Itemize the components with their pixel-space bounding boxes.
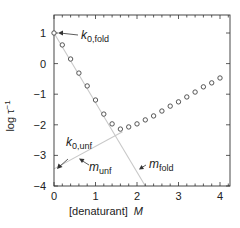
x-axis-label: [denaturant]M <box>69 205 144 217</box>
extrapolation-lines <box>54 33 145 186</box>
data-point <box>77 71 81 75</box>
x-axis-label-main: [denaturant] <box>69 205 128 217</box>
data-points <box>52 31 222 131</box>
x-tick-label: 1 <box>92 190 98 202</box>
data-point <box>127 125 131 129</box>
data-point <box>185 95 189 99</box>
data-point <box>176 100 180 104</box>
data-point <box>60 43 64 47</box>
y-tick-label: −1 <box>33 88 46 100</box>
y-tick-label: 1 <box>40 27 46 39</box>
k0-fold-subscript: 0,fold <box>87 34 109 44</box>
m-unf-subscript: unf <box>99 166 112 176</box>
m-unf-symbol: m <box>89 160 99 174</box>
data-point <box>168 104 172 108</box>
data-point <box>210 81 214 85</box>
svg-text:k0,fold: k0,fold <box>81 28 109 44</box>
annotation-m-unf: munf <box>79 159 112 177</box>
data-point <box>93 98 97 102</box>
data-point <box>102 112 106 116</box>
y-axis-label: log τ−1 <box>3 100 16 132</box>
data-point <box>193 90 197 94</box>
x-tick-label: 2 <box>134 190 140 202</box>
data-point <box>201 85 205 89</box>
annotation-k0-fold: k0,fold <box>58 28 109 44</box>
arrow-head-icon <box>79 159 85 164</box>
data-point <box>118 127 122 131</box>
folding-limb-line <box>54 33 145 186</box>
arrow-head-icon <box>139 165 144 170</box>
x-tick-label: 3 <box>175 190 181 202</box>
y-axis-label-main: log τ <box>4 109 16 132</box>
x-axis-label-unit: M <box>134 205 144 217</box>
m-fold-symbol: m <box>149 157 159 171</box>
y-tick-label: −3 <box>33 149 46 161</box>
data-point <box>160 109 164 113</box>
data-point <box>218 76 222 80</box>
data-point <box>135 122 139 126</box>
y-axis-label-sup: −1 <box>3 100 12 110</box>
data-point <box>110 122 114 126</box>
y-tick-label: −2 <box>33 119 46 131</box>
arrow-head-icon <box>58 31 63 36</box>
data-point <box>85 84 89 88</box>
data-point <box>151 114 155 118</box>
y-tick-label: −4 <box>33 180 46 192</box>
k0-unf-subscript: 0,unf <box>72 141 93 151</box>
y-tick-label: 0 <box>40 58 46 70</box>
chart: 0123410−1−2−3−4 log τ−1 [denaturant]M k0… <box>0 0 240 228</box>
data-point <box>143 118 147 122</box>
x-tick-label: 4 <box>217 190 223 202</box>
data-point <box>68 57 72 61</box>
svg-text:k0,unf: k0,unf <box>66 135 93 151</box>
svg-text:munf: munf <box>89 160 112 176</box>
annotation-m-fold: mfold <box>139 157 174 173</box>
m-fold-subscript: fold <box>159 163 174 173</box>
x-tick-label: 0 <box>51 190 57 202</box>
svg-text:mfold: mfold <box>149 157 174 173</box>
data-point <box>52 31 56 35</box>
